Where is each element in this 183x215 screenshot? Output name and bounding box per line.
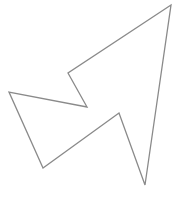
arrow-polygon-diagram bbox=[0, 0, 183, 215]
diagram-canvas bbox=[0, 0, 183, 215]
arrow-polygon-shape bbox=[9, 5, 171, 185]
